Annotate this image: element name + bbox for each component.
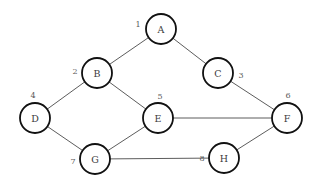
node-e[interactable]: E: [143, 103, 173, 133]
node-number-e: 5: [157, 92, 162, 101]
node-letter-b: B: [94, 68, 101, 79]
edge-e-g: [107, 126, 146, 151]
node-letter-d: D: [31, 113, 39, 124]
node-letter-g: G: [91, 154, 99, 165]
node-g[interactable]: G: [80, 144, 110, 174]
edge-c-f: [230, 81, 275, 110]
node-number-f: 6: [285, 91, 290, 100]
node-number-c: 3: [238, 71, 243, 80]
edge-a-c: [172, 38, 206, 64]
edge-b-d: [47, 82, 86, 110]
node-letter-h: H: [220, 153, 228, 164]
edge-g-h: [110, 158, 210, 159]
node-h[interactable]: H: [209, 143, 239, 173]
graph-svg: ABCDEFGH 12345678: [0, 0, 315, 192]
node-number-h: 8: [199, 154, 204, 163]
node-d[interactable]: D: [20, 103, 50, 133]
node-f[interactable]: F: [272, 103, 302, 133]
node-letter-a: A: [157, 24, 165, 35]
node-number-g: 7: [70, 157, 75, 166]
node-c[interactable]: C: [203, 58, 233, 88]
node-a[interactable]: A: [146, 14, 176, 44]
node-number-b: 2: [72, 67, 77, 76]
edge-h-f: [236, 126, 275, 150]
node-number-a: 1: [135, 20, 140, 29]
node-number-d: 4: [30, 91, 35, 100]
node-letter-c: C: [214, 68, 221, 79]
graph-diagram-canvas: ABCDEFGH 12345678: [0, 0, 315, 192]
node-letter-e: E: [155, 113, 162, 124]
edge-a-b: [109, 37, 149, 65]
node-b[interactable]: B: [82, 58, 112, 88]
node-letter-f: F: [284, 113, 291, 124]
edge-d-g: [47, 126, 83, 151]
edge-b-e: [109, 82, 147, 110]
